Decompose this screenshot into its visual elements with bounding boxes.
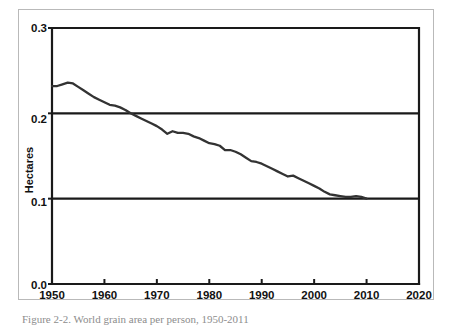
x-tick-label-1980: 1980: [196, 289, 222, 301]
axes: [52, 28, 419, 284]
line-chart: 0.3 0.2 0.1 0.0 Hectares 195019601970198…: [19, 10, 435, 301]
figure-container: 0.3 0.2 0.1 0.0 Hectares 195019601970198…: [0, 0, 450, 327]
figure-caption: Figure 2-2. World grain area per person,…: [22, 311, 432, 327]
x-tick-label-1960: 1960: [92, 289, 118, 301]
x-tick-label-1970: 1970: [144, 289, 170, 301]
x-tick-label-2020: 2020: [406, 289, 432, 301]
x-tick-label-2000: 2000: [301, 289, 327, 301]
x-tick-label-1990: 1990: [249, 289, 275, 301]
gridlines: [52, 28, 419, 199]
series-line-world-grain-area-per-person: [52, 83, 367, 199]
y-tick-label-0.2: 0.2: [31, 113, 47, 125]
x-tick-label-1950: 1950: [39, 289, 65, 301]
x-tick-labels: 19501960197019801990200020102020: [39, 289, 432, 301]
axis-ticks: [48, 28, 419, 284]
x-tick-label-2010: 2010: [354, 289, 380, 301]
chart-frame: 0.3 0.2 0.1 0.0 Hectares 195019601970198…: [18, 9, 434, 300]
y-axis-title: Hectares: [23, 147, 35, 193]
y-tick-label-0.1: 0.1: [31, 196, 48, 208]
y-tick-label-0.3: 0.3: [31, 22, 47, 34]
